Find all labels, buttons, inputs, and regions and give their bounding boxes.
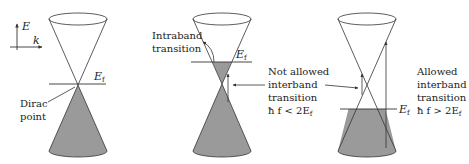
dirac-cone-diagram: E k Ef Dirac point Ef Intraband transiti (0, 0, 469, 164)
conduction-cone-edge (49, 19, 78, 85)
panel-low-frequency: Ef Intraband transition Not allowed inte… (152, 13, 332, 157)
energy-axis-label: E (21, 20, 30, 33)
dirac-point-pointer (48, 87, 75, 102)
intraband-label: Intraband transition (152, 30, 206, 54)
valence-cone-filled (49, 85, 107, 157)
fermi-level-label: E (235, 48, 244, 61)
low-frequency-condition: ħ f < 2Ef (268, 105, 314, 118)
fermi-level-label: E (398, 103, 407, 116)
axes: E k (10, 20, 42, 50)
conduction-cone-top (49, 13, 107, 25)
fermi-level-label: E (93, 70, 102, 83)
high-frequency-condition: ħ f > 2Ef (417, 105, 463, 118)
panel-high-frequency: Ef Allowed interband transition ħ f > 2E… (325, 13, 469, 157)
dirac-point-label: Dirac point (20, 98, 51, 122)
momentum-axis-label: k (33, 34, 40, 47)
conduction-filled-region (213, 62, 232, 84)
valence-filled-region (338, 109, 396, 157)
svg-text:Ef: Ef (93, 70, 106, 84)
valence-cone-filled (193, 84, 251, 157)
conduction-cone-top (338, 13, 396, 25)
conduction-cone-top (193, 13, 251, 25)
svg-text:Ef: Ef (235, 48, 248, 62)
pointer-arrow (325, 85, 358, 88)
allowed-label: Allowed interband transition (416, 66, 469, 103)
not-allowed-label: Not allowed interband transition (268, 66, 332, 103)
svg-text:Ef: Ef (398, 103, 411, 117)
